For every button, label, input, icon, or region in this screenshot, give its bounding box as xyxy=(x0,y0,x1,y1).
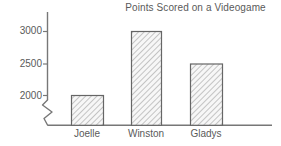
bar-joelle xyxy=(72,96,104,126)
x-tick-label-winston: Winston xyxy=(116,128,176,139)
x-tick-label-joelle: Joelle xyxy=(57,128,117,139)
bar-winston xyxy=(132,32,162,126)
y-tick-label-2000: 2000 xyxy=(8,91,42,101)
y-axis-tick-labels: 3000 2500 2000 xyxy=(4,0,42,146)
x-tick-label-gladys: Gladys xyxy=(176,128,236,139)
y-axis-break-zigzag xyxy=(43,100,53,125)
chart-plot-area xyxy=(0,0,281,146)
y-tick-label-3000: 3000 xyxy=(8,26,42,36)
bar-chart: Points Scored on a Videogame 3000 2500 2… xyxy=(0,0,281,146)
bar-gladys xyxy=(191,64,223,125)
y-tick-label-2500: 2500 xyxy=(8,59,42,69)
